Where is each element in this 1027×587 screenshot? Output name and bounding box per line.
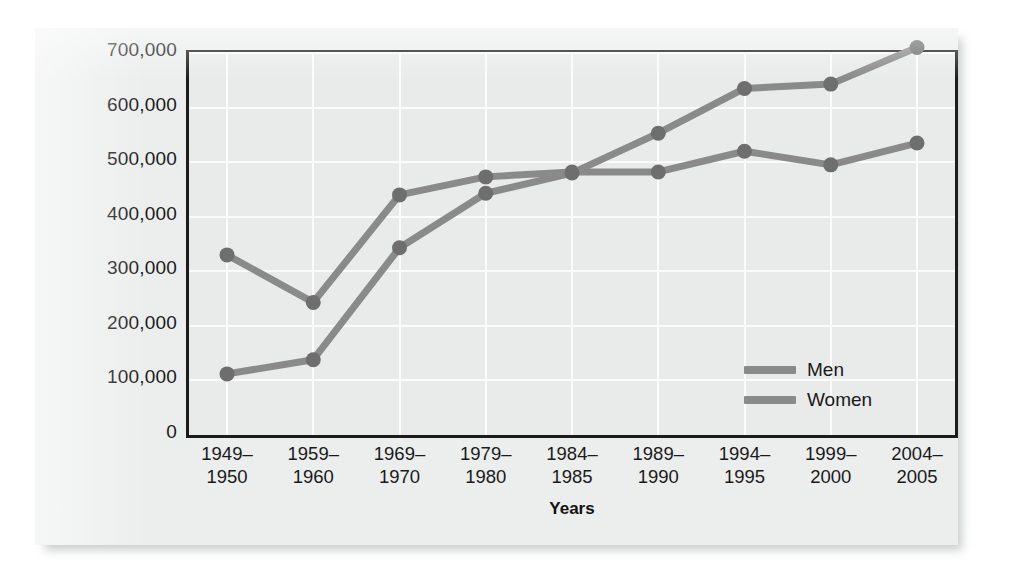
data-point [220,247,235,262]
data-point [220,366,235,381]
x-tick-label: 2004–2005 [891,442,942,488]
x-tick-label: 1994–1995 [719,442,770,488]
data-point [737,81,752,96]
y-tick-label: 700,000 [107,39,177,61]
x-tick-line: 1950 [201,465,252,488]
x-tick-line: 1990 [633,465,684,488]
y-tick-label: 100,000 [107,366,177,388]
y-axis-tick-labels: 0100,000200,000300,000400,000500,000600,… [35,50,177,432]
data-point [392,187,407,202]
x-tick-line: 1980 [460,465,511,488]
data-point [737,144,752,159]
data-point [478,169,493,184]
plot-area: MenWomen [186,50,958,438]
series-line [227,48,917,374]
data-point [392,240,407,255]
data-point [823,157,838,172]
data-point [306,352,321,367]
legend-swatch-icon [744,366,796,374]
x-tick-line: 1949– [201,442,252,465]
series-women [220,40,925,381]
data-point [478,186,493,201]
x-tick-line: 1985 [546,465,597,488]
x-tick-line: 2005 [891,465,942,488]
legend-item-men: Men [744,355,872,385]
data-point [910,40,925,55]
legend-item-women: Women [744,385,872,415]
y-tick-label: 0 [166,421,177,443]
data-point [823,77,838,92]
y-tick-label: 600,000 [107,94,177,116]
x-tick-line: 2004– [891,442,942,465]
x-tick-line: 1960 [288,465,339,488]
figure-card: Degrees earned 0100,000200,000300,000400… [35,28,958,545]
legend-label: Men [807,359,844,381]
x-axis-tick-labels: 1949–19501959–19601969–19701979–19801984… [186,438,958,498]
x-tick-label: 1999–2000 [805,442,856,488]
y-tick-label: 500,000 [107,148,177,170]
legend-swatch-icon [744,396,796,404]
y-tick-label: 200,000 [107,312,177,334]
legend: MenWomen [744,355,872,415]
data-point [651,164,666,179]
legend-label: Women [807,389,872,411]
data-point [306,295,321,310]
x-tick-label: 1979–1980 [460,442,511,488]
x-tick-line: 1979– [460,442,511,465]
x-tick-line: 1969– [374,442,425,465]
x-tick-label: 1949–1950 [201,442,252,488]
y-tick-label: 300,000 [107,257,177,279]
x-tick-line: 1995 [719,465,770,488]
x-tick-label: 1959–1960 [288,442,339,488]
x-tick-line: 2000 [805,465,856,488]
series-men [220,136,925,310]
data-point [565,166,580,181]
x-tick-line: 1999– [805,442,856,465]
x-axis-title: Years [186,499,958,519]
x-tick-line: 1970 [374,465,425,488]
x-tick-label: 1989–1990 [633,442,684,488]
x-tick-line: 1984– [546,442,597,465]
data-point [651,126,666,141]
x-tick-line: 1989– [633,442,684,465]
x-tick-label: 1969–1970 [374,442,425,488]
data-point [910,136,925,151]
x-tick-line: 1994– [719,442,770,465]
x-tick-label: 1984–1985 [546,442,597,488]
x-tick-line: 1959– [288,442,339,465]
y-tick-label: 400,000 [107,203,177,225]
